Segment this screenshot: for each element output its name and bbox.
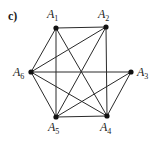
graph-diagram: c) A1A2A3A4A5A6 xyxy=(0,0,157,141)
edge-a3-a4 xyxy=(107,72,131,116)
node-label-a2: A2 xyxy=(97,7,109,23)
edge-a2-a6 xyxy=(31,27,106,72)
edge-a3-a5 xyxy=(56,72,131,117)
node-label-a5: A5 xyxy=(47,120,59,136)
node-a5 xyxy=(53,114,58,119)
part-label: c) xyxy=(8,9,17,23)
node-a1 xyxy=(53,25,58,30)
node-a3 xyxy=(128,69,133,74)
edge-a1-a2 xyxy=(56,27,106,28)
node-label-a3: A3 xyxy=(136,65,148,81)
node-label-a1: A1 xyxy=(46,7,58,23)
edges xyxy=(31,27,131,117)
node-a6 xyxy=(28,69,33,74)
node-label-a6: A6 xyxy=(12,65,24,81)
edge-a1-a6 xyxy=(31,28,56,72)
node-label-a4: A4 xyxy=(99,120,111,136)
node-a2 xyxy=(103,24,108,29)
node-a4 xyxy=(104,113,109,118)
edge-a5-a4 xyxy=(56,116,107,117)
